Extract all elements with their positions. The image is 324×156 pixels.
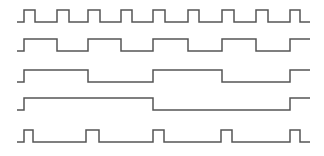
waveform-3 [17,70,310,82]
timing-diagram [0,0,324,156]
waveform-5 [17,130,310,142]
waveform-2 [17,39,310,51]
waveform-1 [17,10,310,22]
waveform-4 [17,98,310,110]
